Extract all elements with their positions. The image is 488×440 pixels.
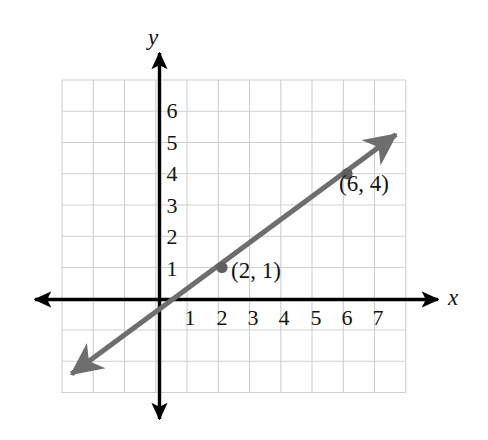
y-tick-label-5: 5 (164, 132, 180, 154)
x-tick-label-2: 2 (214, 307, 230, 329)
point-marker-2-1 (216, 262, 227, 273)
x-tick-label-7: 7 (370, 307, 386, 329)
y-tick-label-6: 6 (164, 100, 180, 122)
graph-figure: y x 1 2 3 4 5 6 7 1 2 3 4 5 6 (2, 1) (6,… (0, 0, 488, 440)
x-tick-label-3: 3 (245, 307, 261, 329)
y-tick-label-2: 2 (164, 226, 180, 248)
coordinate-plane-svg (0, 0, 488, 440)
x-axis-label: x (448, 286, 458, 309)
x-tick-label-6: 6 (339, 307, 355, 329)
x-tick-label-1: 1 (182, 307, 198, 329)
x-tick-label-5: 5 (308, 307, 324, 329)
y-tick-label-3: 3 (164, 195, 180, 217)
y-axis-label: y (148, 26, 158, 49)
y-tick-label-4: 4 (164, 163, 180, 185)
y-tick-label-1: 1 (164, 258, 180, 280)
point-label-6-4: (6, 4) (339, 172, 389, 195)
point-label-2-1: (2, 1) (231, 259, 281, 282)
x-tick-label-4: 4 (276, 307, 292, 329)
